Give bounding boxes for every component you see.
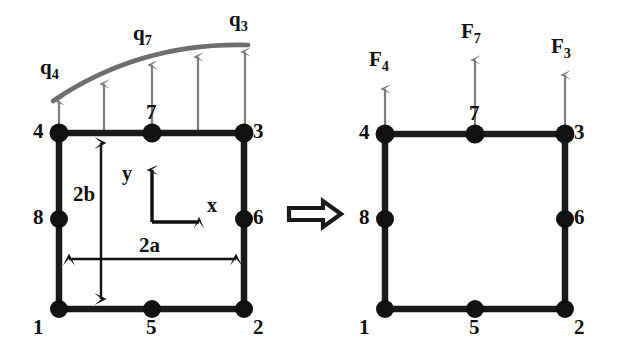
- node-1: [376, 300, 394, 318]
- node-7: [466, 125, 485, 144]
- node-3: [235, 124, 254, 143]
- node-7: [143, 124, 162, 143]
- node-label-8: 8: [359, 207, 370, 228]
- node-4: [376, 125, 395, 144]
- load-label-q4: q4: [40, 57, 59, 81]
- load-equivalence-figure: q4 q7 q3 4 7 3 8 6 1 5 2 2b 2a y x F4 F7…: [0, 0, 623, 362]
- node-label-1: 1: [33, 317, 44, 338]
- force-label-F7: F7: [461, 21, 481, 45]
- node-label-2: 2: [574, 317, 585, 338]
- node-2: [235, 300, 253, 318]
- right-element-nodes: [376, 125, 575, 319]
- node-label-1: 1: [359, 317, 370, 338]
- height-dimension-label: 2b: [73, 184, 95, 205]
- node-4: [50, 124, 69, 143]
- implies-arrow: [289, 201, 341, 227]
- node-3: [556, 125, 575, 144]
- distributed-load-curve: [53, 45, 248, 101]
- x-axis-label: x: [207, 195, 217, 215]
- node-8: [376, 210, 394, 228]
- node-1: [50, 300, 68, 318]
- node-label-3: 3: [253, 121, 264, 142]
- node-label-7: 7: [146, 102, 157, 123]
- node-label-2: 2: [253, 317, 264, 338]
- node-6: [556, 210, 574, 228]
- y-axis-label: y: [122, 163, 132, 183]
- figure-canvas: [0, 0, 623, 362]
- force-label-F4: F4: [369, 49, 389, 73]
- node-label-5: 5: [469, 317, 480, 338]
- node-8: [50, 210, 68, 228]
- width-dimension-label: 2a: [139, 235, 160, 256]
- node-label-4: 4: [33, 121, 44, 142]
- node-label-5: 5: [146, 317, 157, 338]
- node-2: [556, 300, 574, 318]
- node-label-3: 3: [574, 122, 585, 143]
- node-label-7: 7: [469, 103, 480, 124]
- node-label-8: 8: [33, 207, 44, 228]
- load-label-q7: q7: [133, 23, 152, 47]
- node-6: [235, 210, 253, 228]
- load-label-q3: q3: [229, 9, 248, 33]
- coordinate-axes: [152, 170, 199, 222]
- force-label-F3: F3: [551, 36, 571, 60]
- right-element-outline: [385, 134, 565, 309]
- node-label-6: 6: [574, 207, 585, 228]
- node-label-6: 6: [253, 207, 264, 228]
- node-label-4: 4: [359, 122, 370, 143]
